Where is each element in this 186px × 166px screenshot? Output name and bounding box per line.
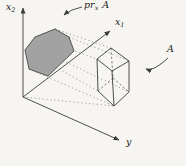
projection-label-arrow xyxy=(64,7,82,15)
projection-ray xyxy=(29,69,114,106)
polyhedron-outline xyxy=(97,48,129,106)
diagram-svg xyxy=(0,0,186,166)
figure-canvas: x2 prxA x1 A y xyxy=(0,0,186,166)
projection-region xyxy=(25,29,74,76)
y-axis-label: y xyxy=(126,137,131,147)
projection-label: prxA xyxy=(84,0,109,12)
polyhedron-front-edges xyxy=(97,59,129,106)
y-axis xyxy=(23,97,119,140)
polyhedron-a xyxy=(97,48,129,106)
x1-axis-label: x1 xyxy=(115,17,125,29)
set-label: A xyxy=(167,44,174,54)
projection-ray xyxy=(23,97,114,106)
x2-axis-label: x2 xyxy=(6,2,16,14)
set-label-arrow xyxy=(146,58,168,70)
